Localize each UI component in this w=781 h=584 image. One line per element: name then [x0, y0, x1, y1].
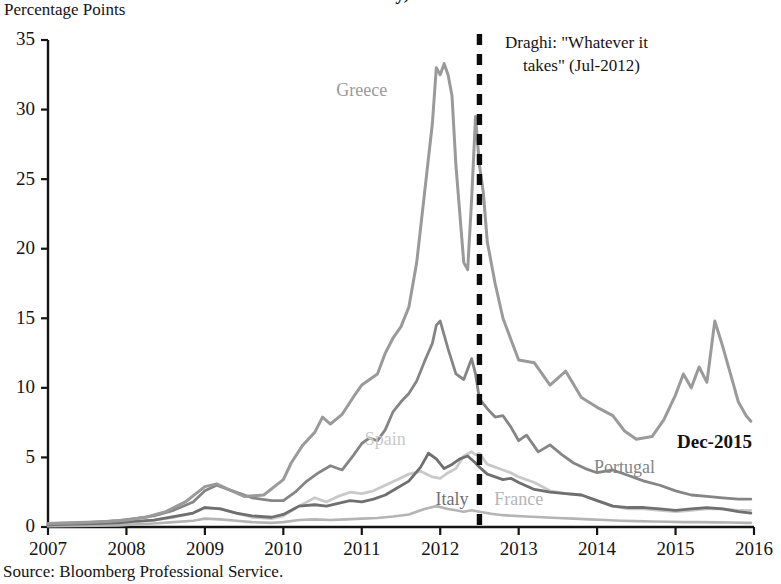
series-label-greece: Greece [336, 80, 387, 100]
y-axis-ticks: 05101520253035 [16, 28, 48, 536]
x-tick-label: 2012 [421, 538, 459, 559]
series-inline-labels: GreecePortugalSpainItalyFrance [336, 80, 655, 510]
series-label-portugal: Portugal [594, 457, 655, 477]
x-tick-label: 2007 [29, 538, 67, 559]
x-tick-label: 2011 [343, 538, 380, 559]
x-tick-label: 2014 [578, 538, 617, 559]
x-axis-ticks: 2007200820092010201120122013201420152016 [29, 527, 773, 559]
y-tick-label: 15 [16, 307, 35, 328]
draghi-annotation-line2: takes" (Jul-2012) [523, 56, 640, 75]
x-tick-label: 2008 [107, 538, 145, 559]
series-line-portugal [48, 321, 751, 524]
y-tick-label: 5 [26, 446, 36, 467]
series-label-italy: Italy [435, 489, 468, 509]
x-tick-label: 2009 [186, 538, 224, 559]
x-tick-label: 2016 [735, 538, 773, 559]
source-note: Source: Bloomberg Professional Service. [3, 562, 283, 582]
x-tick-label: 2010 [264, 538, 302, 559]
y-tick-label: 10 [16, 376, 35, 397]
draghi-annotation-line1: Draghi: "Whatever it [505, 33, 648, 52]
series-line-greece [48, 64, 751, 524]
dec-2015-annotation: Dec-2015 [677, 431, 752, 452]
y-tick-label: 0 [26, 515, 36, 536]
y-tick-label: 30 [16, 98, 35, 119]
series-label-spain: Spain [365, 429, 406, 449]
y-tick-label: 25 [16, 168, 35, 189]
axis-lines [48, 40, 754, 527]
x-tick-label: 2015 [657, 538, 695, 559]
y-tick-label: 35 [16, 28, 35, 49]
x-tick-label: 2013 [500, 538, 538, 559]
series-label-france: France [494, 489, 543, 509]
chart-figure: Over Germany, 2007–2015 Percentage Point… [0, 0, 781, 584]
y-tick-label: 20 [16, 237, 35, 258]
chart-annotations: Draghi: "Whatever ittakes" (Jul-2012)Dec… [505, 33, 752, 452]
line-chart-plot: 05101520253035 2007200820092010201120122… [0, 0, 781, 584]
